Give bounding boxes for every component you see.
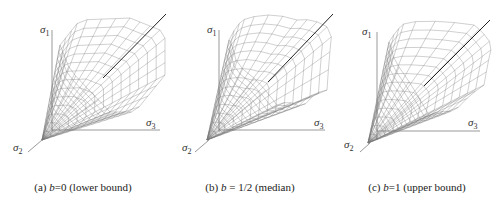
panel-a: σ1 σ2 σ3 (a) b=0 (lower bound) (0, 0, 166, 203)
axis-label-sigma2: σ2 (344, 138, 353, 153)
axis-label-sigma3: σ3 (146, 116, 155, 131)
axis-label-sigma1: σ1 (40, 23, 49, 38)
caption-b: (b) b = 1/2 (median) (167, 181, 333, 193)
axis-label-sigma2: σ2 (13, 141, 22, 156)
yield-surface-wireframe-c (334, 0, 500, 180)
caption-c: (c) b=1 (upper bound) (334, 181, 500, 193)
yield-surface-wireframe-a (0, 0, 166, 180)
axis-label-sigma1: σ1 (362, 25, 371, 40)
axis-label-sigma3: σ3 (468, 116, 477, 131)
axis-label-sigma2: σ2 (182, 141, 191, 156)
caption-a: (a) b=0 (lower bound) (0, 181, 166, 193)
panel-b: σ1 σ2 σ3 (b) b = 1/2 (median) (167, 0, 333, 203)
axis-label-sigma1: σ1 (207, 23, 216, 38)
yield-surface-wireframe-b (167, 0, 333, 180)
panel-c: σ1 σ2 σ3 (c) b=1 (upper bound) (334, 0, 500, 203)
axis-label-sigma3: σ3 (314, 116, 323, 131)
